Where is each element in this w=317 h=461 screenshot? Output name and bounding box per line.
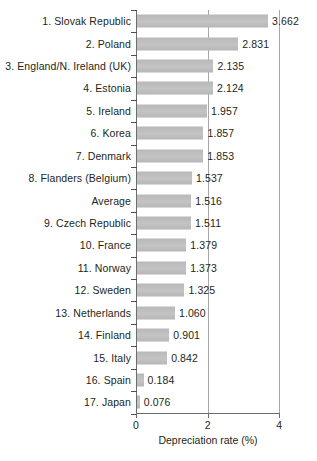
value-label: 0.184: [148, 374, 175, 386]
category-label: 13. Netherlands: [55, 307, 131, 319]
value-label: 2.135: [217, 60, 244, 72]
category-label: 8. Flanders (Belgium): [29, 172, 131, 184]
x-axis-title: Depreciation rate (%): [136, 434, 280, 447]
y-tick: [131, 145, 137, 146]
y-tick: [131, 167, 137, 168]
category-label: 9. Czech Republic: [44, 217, 131, 229]
bar: [137, 172, 192, 185]
y-tick: [131, 10, 137, 11]
category-label: 14. Finland: [78, 329, 131, 341]
y-tick: [131, 77, 137, 78]
y-tick: [131, 257, 137, 258]
category-label: Average: [91, 195, 131, 207]
category-label: 10. France: [80, 239, 131, 251]
category-label: 1. Slovak Republic: [42, 15, 131, 27]
category-label: 12. Sweden: [75, 284, 131, 296]
y-tick: [131, 55, 137, 56]
category-label: 15. Italy: [93, 352, 131, 364]
value-label: 1.857: [207, 127, 234, 139]
value-label: 0.901: [173, 329, 200, 341]
y-tick: [131, 122, 137, 123]
x-tick-label: 0: [133, 419, 139, 432]
bar-row: 11. Norway1.373: [0, 257, 317, 279]
x-tick: [136, 413, 137, 418]
bar-row: 8. Flanders (Belgium)1.537: [0, 167, 317, 189]
y-tick: [131, 100, 137, 101]
y-tick: [131, 212, 137, 213]
value-label: 1.373: [190, 262, 217, 274]
x-tick-label: 2: [205, 419, 211, 432]
y-tick: [131, 32, 137, 33]
bar-row: 17. Japan0.076: [0, 391, 317, 413]
value-label: 2.124: [217, 82, 244, 94]
bar-row: 10. France1.379: [0, 234, 317, 256]
category-label: 5. Ireland: [86, 105, 131, 117]
bar: [137, 60, 213, 73]
value-label: 0.842: [171, 352, 198, 364]
bar-row: 6. Korea1.857: [0, 122, 317, 144]
category-label: 17. Japan: [84, 396, 131, 408]
bar-row: 15. Italy0.842: [0, 346, 317, 368]
depreciation-rate-bar-chart: 1. Slovak Republic3.6622. Poland2.8313. …: [0, 0, 317, 461]
category-label: 6. Korea: [91, 127, 132, 139]
value-label: 1.537: [196, 172, 223, 184]
bar: [137, 194, 191, 207]
bar-row: 2. Poland2.831: [0, 32, 317, 54]
y-tick: [131, 324, 137, 325]
bar: [137, 239, 186, 252]
value-label: 2.831: [242, 38, 269, 50]
bar: [137, 396, 140, 409]
bar: [137, 284, 184, 297]
bar-row: 13. Netherlands1.060: [0, 301, 317, 323]
bar-row: 3. England/N. Ireland (UK)2.135: [0, 55, 317, 77]
x-tick: [208, 413, 209, 418]
bar-row: 12. Sweden1.325: [0, 279, 317, 301]
value-label: 1.325: [188, 284, 215, 296]
bar: [137, 37, 238, 50]
y-tick: [131, 301, 137, 302]
category-label: 16. Spain: [86, 374, 131, 386]
bar: [137, 373, 144, 386]
category-label: 2. Poland: [86, 38, 131, 50]
value-label: 1.853: [207, 150, 234, 162]
bar-row: 9. Czech Republic1.511: [0, 212, 317, 234]
y-tick: [131, 369, 137, 370]
bar: [137, 329, 169, 342]
bar: [137, 15, 268, 28]
value-label: 1.511: [195, 217, 221, 229]
value-label: 1.516: [195, 195, 222, 207]
x-tick-label: 4: [276, 419, 282, 432]
category-label: 4. Estonia: [83, 82, 131, 94]
value-label: 3.662: [272, 15, 299, 27]
bar: [137, 104, 207, 117]
category-label: 7. Denmark: [76, 150, 131, 162]
y-tick: [131, 279, 137, 280]
plot-area: 1. Slovak Republic3.6622. Poland2.8313. …: [0, 0, 317, 461]
bar: [137, 261, 186, 274]
bar: [137, 306, 175, 319]
bar: [137, 216, 191, 229]
bar: [137, 351, 167, 364]
value-label: 1.379: [190, 239, 217, 251]
y-tick: [131, 346, 137, 347]
x-tick: [279, 413, 280, 418]
category-label: 11. Norway: [78, 262, 131, 274]
bar: [137, 82, 213, 95]
bar: [137, 149, 203, 162]
y-tick: [131, 391, 137, 392]
bar-row: 14. Finland0.901: [0, 324, 317, 346]
bar-row: Average1.516: [0, 189, 317, 211]
bar: [137, 127, 203, 140]
bar-row: 7. Denmark1.853: [0, 145, 317, 167]
value-label: 1.957: [211, 105, 238, 117]
y-tick: [131, 189, 137, 190]
category-label: 3. England/N. Ireland (UK): [5, 60, 131, 72]
y-tick: [131, 234, 137, 235]
value-label: 0.076: [144, 396, 171, 408]
value-label: 1.060: [179, 307, 206, 319]
bar-row: 4. Estonia2.124: [0, 77, 317, 99]
bar-row: 5. Ireland1.957: [0, 100, 317, 122]
bar-row: 16. Spain0.184: [0, 369, 317, 391]
bar-row: 1. Slovak Republic3.662: [0, 10, 317, 32]
